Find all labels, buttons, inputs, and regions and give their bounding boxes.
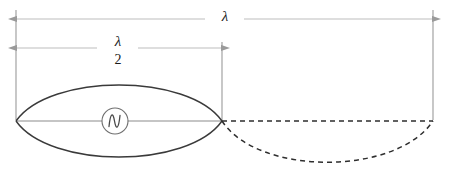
half-wavelength-numerator: λ xyxy=(114,34,122,51)
standing-wave-figure: λ λ 2 xyxy=(0,0,449,176)
half-wavelength-label: λ 2 xyxy=(98,33,138,68)
figure-canvas xyxy=(0,0,449,176)
negative-half-cycle-dashed xyxy=(222,121,433,162)
half-wavelength-fraction: λ 2 xyxy=(114,34,122,67)
full-wavelength-label: λ xyxy=(206,8,244,25)
half-wavelength-denominator: 2 xyxy=(114,52,122,68)
